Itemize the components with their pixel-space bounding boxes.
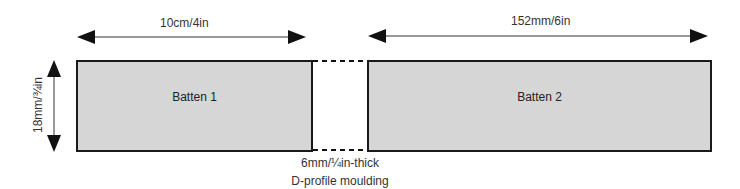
- dimension-arrow-height: [47, 60, 61, 152]
- batten-2-label: Batten 2: [517, 90, 562, 104]
- dimension-arrow-batten1: [77, 30, 306, 44]
- moulding-note-line1: 6mm/¼in-thick: [265, 154, 415, 172]
- batten-1-label: Batten 1: [172, 90, 217, 104]
- moulding-note-line2: D-profile moulding: [265, 172, 415, 189]
- batten1-length-label: 10cm/4in: [160, 16, 209, 30]
- moulding-note: 6mm/¼in-thick D-profile moulding: [265, 154, 415, 189]
- height-label: 18mm/¾in: [31, 75, 45, 135]
- batten2-length-label: 152mm/6in: [511, 14, 570, 28]
- batten-1: Batten 1: [76, 60, 313, 152]
- batten-2: Batten 2: [367, 60, 712, 152]
- dimension-arrow-batten2: [368, 29, 708, 43]
- moulding-dashed-lines: [313, 61, 368, 150]
